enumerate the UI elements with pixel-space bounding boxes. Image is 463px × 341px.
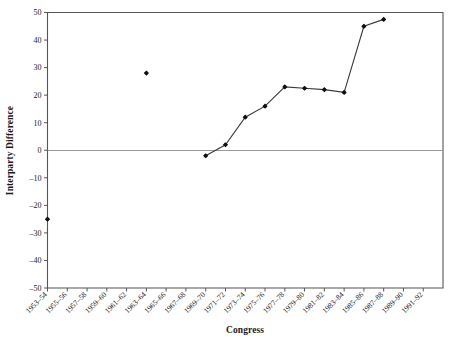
marker-dot xyxy=(323,88,326,91)
y-tick-label: 30 xyxy=(34,63,42,72)
marker-dot xyxy=(382,18,385,21)
chart-figure: 50403020100–10–20–30–40–50 1953–541955–5… xyxy=(0,0,463,341)
y-tick-label: –50 xyxy=(29,284,42,293)
marker-dot xyxy=(224,143,227,146)
marker-dot xyxy=(46,217,49,220)
y-tick-label: –10 xyxy=(29,174,42,183)
y-tick-label: 50 xyxy=(34,8,42,17)
marker-dot xyxy=(342,91,345,94)
y-axis-label: Interparty Difference xyxy=(5,106,15,195)
marker-dot xyxy=(303,87,306,90)
marker-dot xyxy=(204,154,207,157)
y-tick-label: 40 xyxy=(34,36,42,45)
marker-dot xyxy=(244,115,247,118)
marker-dot xyxy=(283,85,286,88)
y-tick-label: 0 xyxy=(38,146,42,155)
marker-dot xyxy=(263,104,266,107)
y-tick-label: –20 xyxy=(29,201,42,210)
y-tick-label: 20 xyxy=(34,91,42,100)
y-tick-label: 10 xyxy=(34,119,42,128)
marker-dot xyxy=(145,71,148,74)
x-axis-label: Congress xyxy=(226,325,264,335)
y-tick-label: –40 xyxy=(29,256,42,265)
y-tick-label: –30 xyxy=(29,229,42,238)
marker-dot xyxy=(362,25,365,28)
chart-background xyxy=(0,0,463,341)
